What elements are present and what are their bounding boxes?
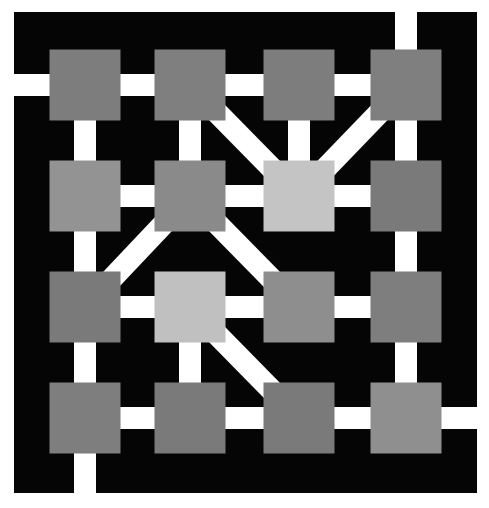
grid-tile[interactable] xyxy=(155,383,226,454)
grid-tile[interactable] xyxy=(371,383,442,454)
grid-tile[interactable] xyxy=(155,50,226,121)
grid-tile[interactable] xyxy=(50,272,121,343)
grid-tile[interactable] xyxy=(371,50,442,121)
grid-tile[interactable] xyxy=(264,272,335,343)
puzzle-board xyxy=(0,0,489,508)
grid-tile[interactable] xyxy=(264,161,335,232)
grid-tile[interactable] xyxy=(155,272,226,343)
grid-tile[interactable] xyxy=(264,383,335,454)
grid-tile[interactable] xyxy=(50,161,121,232)
grid-tile[interactable] xyxy=(371,161,442,232)
grid-tile[interactable] xyxy=(50,50,121,121)
grid-tile[interactable] xyxy=(371,272,442,343)
grid-tile[interactable] xyxy=(155,161,226,232)
grid-tile[interactable] xyxy=(50,383,121,454)
grid-tile[interactable] xyxy=(264,50,335,121)
